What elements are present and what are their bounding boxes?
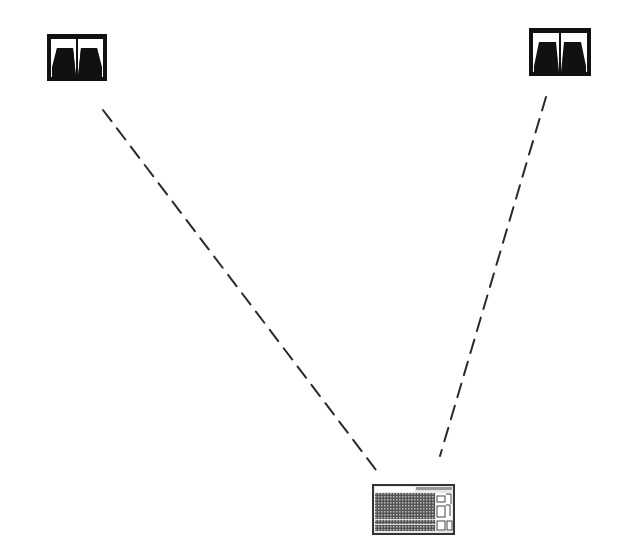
speaker-icon <box>529 28 591 76</box>
speaker-right <box>529 28 591 76</box>
speaker-left <box>47 34 107 81</box>
mixer <box>372 484 455 535</box>
dashed-line-right-speaker-to-mixer <box>440 97 546 456</box>
diagram-canvas <box>0 0 619 557</box>
connections-layer <box>0 0 619 557</box>
speaker-icon <box>47 34 107 81</box>
dashed-line-left-speaker-to-mixer <box>103 110 376 470</box>
mixing-console-icon <box>372 484 455 535</box>
